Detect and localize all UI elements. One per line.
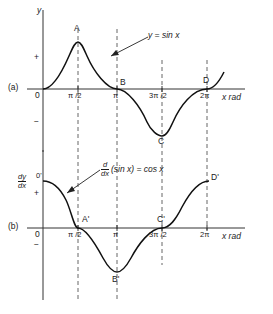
panel-b-ticklabel-pi-over-2: π /2 xyxy=(68,231,82,239)
panel-b-y-axis-label: dy dx xyxy=(18,173,26,190)
panel-b-ticklabel-3pi-over-2: 3π /2 xyxy=(149,231,167,239)
panel-b-origin-prime-label: 0' xyxy=(36,172,42,180)
dy-numerator: dy xyxy=(18,173,26,181)
dx-denominator: dx xyxy=(18,181,26,190)
panel-b-ticklabel-pi: π xyxy=(113,231,118,239)
point-label-d-prime: D' xyxy=(211,173,219,182)
point-label-c: C xyxy=(158,137,164,146)
panel-a-x-axis-label: x rad xyxy=(222,93,241,102)
derivative-expression-rest: (sin x) = cos x xyxy=(111,164,164,174)
cosine-curve-label: d dx (sin x) = cos x xyxy=(101,161,164,178)
panel-b-origin-label: 0 xyxy=(35,230,40,239)
panel-b-plus-marker: + xyxy=(34,189,39,198)
panel-b-x-axis-label: x rad xyxy=(222,232,241,241)
point-label-a-prime: A' xyxy=(82,215,89,224)
panel-a-ticklabel-2pi: 2π xyxy=(200,92,209,100)
derivative-denominator: dx xyxy=(101,169,109,178)
panel-a-tag: (a) xyxy=(8,83,18,92)
panel-a-ticklabel-3pi-over-2: 3π /2 xyxy=(149,92,167,100)
panel-a-ticklabel-pi: π xyxy=(113,92,118,100)
panel-a-origin-label: 0 xyxy=(35,91,40,100)
point-label-a: A xyxy=(74,24,80,33)
figure-svg xyxy=(0,0,273,314)
cosine-curve xyxy=(43,181,209,272)
panel-a-plus-marker: + xyxy=(34,53,39,62)
point-label-c-prime: C' xyxy=(157,215,165,224)
point-label-b: B xyxy=(120,78,126,87)
derivative-numerator: d xyxy=(103,161,107,169)
point-label-d: D xyxy=(203,76,209,85)
panel-a-ticklabel-pi-over-2: π /2 xyxy=(68,92,82,100)
panel-a-y-axis-label: y xyxy=(37,6,41,15)
point-label-b-prime: B' xyxy=(112,275,119,284)
sine-curve-label: y = sin x xyxy=(148,31,179,40)
figure-container: (a) y x rad 0 + − π /2 π 3π /2 2π A B C … xyxy=(0,0,273,314)
panel-b-minus-marker: − xyxy=(34,240,39,249)
cosine-label-leader xyxy=(67,170,100,193)
panel-b-ticklabel-2pi: 2π xyxy=(200,231,209,239)
panel-b-tag: (b) xyxy=(8,222,18,231)
panel-a-minus-marker: − xyxy=(34,117,39,126)
panel-a-axes xyxy=(27,10,245,152)
